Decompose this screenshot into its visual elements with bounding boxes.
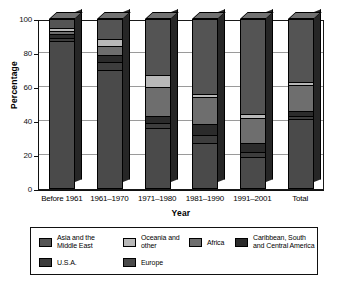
bar-segment	[146, 128, 170, 189]
bar-group	[97, 19, 130, 189]
legend-item: Caribbean, South and Central America	[235, 234, 315, 250]
x-tick-label: Total	[270, 194, 330, 203]
bar-segment	[193, 19, 217, 94]
bar-segment	[50, 19, 74, 28]
legend-swatch	[235, 238, 248, 247]
legend-item: Africa	[189, 238, 229, 247]
bar-segment	[289, 19, 313, 82]
bar-segment	[289, 119, 313, 189]
bar-segment	[98, 70, 122, 189]
bar-segment	[289, 82, 313, 85]
y-axis-line	[38, 20, 39, 190]
bar-group	[145, 19, 178, 189]
bar-segment	[50, 28, 74, 31]
y-tick-mark-60	[34, 88, 38, 89]
plot-area	[38, 20, 324, 190]
y-tick-mark-80	[34, 54, 38, 55]
bar-front-face	[288, 19, 314, 189]
bar-front-face	[97, 19, 123, 189]
legend-swatch	[123, 238, 136, 247]
bar-side-face	[171, 9, 178, 182]
y-tick-mark-20	[34, 156, 38, 157]
bar-segment	[98, 55, 122, 62]
bar-segment	[146, 123, 170, 128]
y-tick-mark-100	[34, 20, 38, 21]
bar-segment	[193, 135, 217, 144]
legend-label: Asia and the Middle East	[57, 234, 111, 250]
legend-swatch	[189, 238, 202, 247]
bar-segment	[289, 111, 313, 116]
bar-group	[288, 19, 321, 189]
legend-item: Europe	[123, 258, 183, 267]
bar-segment	[50, 34, 74, 37]
chart-root: 020406080100 Percentage Before 19611961–…	[0, 0, 348, 285]
legend-label: Europe	[141, 259, 163, 267]
y-tick-label-20: 20	[0, 152, 32, 160]
y-axis-title: Percentage	[9, 45, 19, 125]
bar-segment	[289, 116, 313, 119]
bar-segment	[98, 39, 122, 46]
bar-segment	[146, 75, 170, 87]
legend-label: U.S.A.	[57, 259, 77, 267]
bar-segment	[98, 62, 122, 71]
bar-segment	[241, 19, 265, 114]
bar-segment	[146, 87, 170, 116]
bar-segment	[193, 143, 217, 189]
bar-front-face	[145, 19, 171, 189]
bar-segment	[241, 157, 265, 189]
bar-segment	[241, 114, 265, 117]
bar-segment	[193, 97, 217, 124]
bar-segment	[50, 31, 74, 34]
legend-label: Caribbean, South and Central America	[253, 234, 315, 250]
bar-segment	[241, 118, 265, 144]
y-tick-label-100: 100	[0, 16, 32, 24]
bar-group	[240, 19, 273, 189]
legend-label: Africa	[207, 239, 224, 247]
legend-label: Oceania and other	[141, 234, 181, 250]
y-tick-label-0: 0	[0, 186, 32, 194]
bar-side-face	[123, 9, 130, 182]
bar-group	[192, 19, 225, 189]
x-axis-title: Year	[38, 208, 324, 218]
bar-group	[49, 19, 82, 189]
bar-segment	[50, 41, 74, 189]
bar-segment	[241, 152, 265, 157]
y-tick-mark-40	[34, 122, 38, 123]
legend-swatch	[39, 258, 52, 267]
bar-segment	[50, 38, 74, 41]
bar-segment	[98, 19, 122, 39]
legend-swatch	[39, 238, 52, 247]
legend-swatch	[123, 258, 136, 267]
bar-segment	[241, 143, 265, 152]
bar-front-face	[192, 19, 218, 189]
bar-front-face	[49, 19, 75, 189]
bar-segment	[289, 85, 313, 111]
bar-side-face	[218, 9, 225, 182]
bar-front-face	[240, 19, 266, 189]
bar-segment	[193, 94, 217, 97]
bar-side-face	[266, 9, 273, 182]
legend-item: Oceania and other	[123, 234, 181, 250]
bar-segment	[193, 124, 217, 134]
bar-segment	[98, 46, 122, 55]
x-axis-line	[38, 190, 324, 191]
bar-side-face	[75, 9, 82, 182]
bar-segment	[146, 19, 170, 75]
legend-item: U.S.A.	[39, 258, 99, 267]
bar-segment	[146, 116, 170, 123]
bar-side-face	[314, 9, 321, 182]
legend-item: Asia and the Middle East	[39, 234, 111, 250]
chart-legend: Asia and the Middle EastOceania and othe…	[30, 227, 318, 275]
